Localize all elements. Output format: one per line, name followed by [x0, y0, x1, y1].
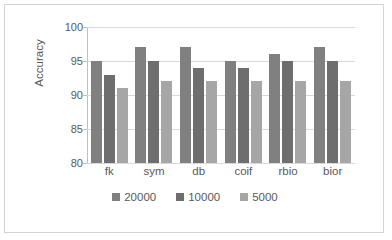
bar [206, 81, 217, 163]
x-axis-tick-label: fk [105, 165, 114, 177]
bar [314, 47, 325, 163]
bar [148, 61, 159, 163]
bar [135, 47, 146, 163]
y-axis-tick-mark [83, 163, 87, 164]
y-axis-tick-mark [83, 61, 87, 62]
x-axis-tick-label: coif [234, 165, 252, 177]
x-axis-tick-label: bior [323, 165, 342, 177]
bar [327, 61, 338, 163]
bar [180, 47, 191, 163]
bar-group [266, 27, 311, 163]
bar [282, 61, 293, 163]
plot-area [87, 27, 355, 163]
bar [104, 75, 115, 163]
bar-group [176, 27, 221, 163]
y-axis-tick-mark [83, 27, 87, 28]
y-axis-tick-label: 100 [49, 21, 83, 33]
x-axis-tick-label: sym [143, 165, 164, 177]
legend-label: 10000 [188, 191, 220, 203]
chart-frame: Accuracy 80859095100 fksymdbcoifrbiobior… [4, 4, 384, 233]
gridline [87, 163, 355, 164]
bar [225, 61, 236, 163]
legend-label: 20000 [124, 191, 156, 203]
bar [295, 81, 306, 163]
y-axis-tick-label: 80 [49, 157, 83, 169]
bar-group [87, 27, 132, 163]
y-axis-tick-labels: 80859095100 [45, 27, 83, 163]
chart-legend: 20000100005000 [5, 191, 385, 203]
legend-swatch-icon [176, 193, 184, 201]
y-axis-tick-label: 95 [49, 55, 83, 67]
legend-swatch-icon [112, 193, 120, 201]
y-axis-tick-mark [83, 129, 87, 130]
bar [117, 88, 128, 163]
bar [238, 68, 249, 163]
legend-item: 20000 [112, 191, 156, 203]
bar-series-layer [87, 27, 355, 163]
bar [193, 68, 204, 163]
legend-label: 5000 [252, 191, 278, 203]
x-axis-tick-label: rbio [278, 165, 297, 177]
bar [251, 81, 262, 163]
bar-group [132, 27, 177, 163]
y-axis-title: Accuracy [33, 13, 45, 113]
bar-group [221, 27, 266, 163]
y-axis-tick-label: 85 [49, 123, 83, 135]
bar-group [310, 27, 355, 163]
legend-item: 10000 [176, 191, 220, 203]
legend-swatch-icon [240, 193, 248, 201]
y-axis-tick-mark [83, 95, 87, 96]
bar [269, 54, 280, 163]
x-axis-tick-label: db [192, 165, 205, 177]
y-axis-tick-label: 90 [49, 89, 83, 101]
bar [91, 61, 102, 163]
bar [340, 81, 351, 163]
legend-item: 5000 [240, 191, 278, 203]
bar [161, 81, 172, 163]
x-axis-tick-labels: fksymdbcoifrbiobior [87, 165, 355, 183]
